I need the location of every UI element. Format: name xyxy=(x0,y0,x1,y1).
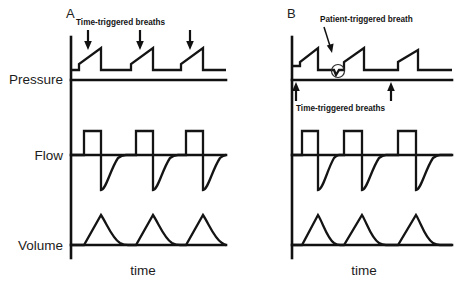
figure-background xyxy=(0,0,461,291)
panel-b-time-axis-label: time xyxy=(351,263,377,278)
panel-a-time-triggered-label: Time-triggered breaths xyxy=(76,18,165,27)
panel-a-flow-label: Flow xyxy=(34,148,63,163)
ventilator-waveform-figure: A Pressure Flow Volume Time-triggered br… xyxy=(0,0,461,291)
panel-a-time-axis-label: time xyxy=(130,263,156,278)
panel-a-pressure-label: Pressure xyxy=(9,72,63,87)
panel-b-patient-triggered-label: Patient-triggered breath xyxy=(320,15,413,24)
panel-a-letter: A xyxy=(66,6,75,21)
panel-b-letter: B xyxy=(287,6,296,21)
panel-a-volume-label: Volume xyxy=(18,238,63,253)
panel-b-time-triggered-label: Time-triggered breaths xyxy=(296,104,385,113)
